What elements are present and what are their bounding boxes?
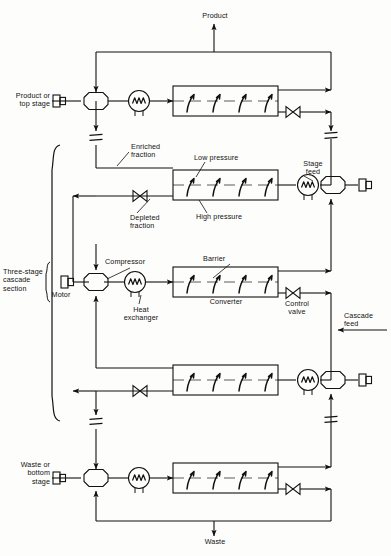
control-valve-symbol: [286, 288, 300, 299]
control-valve-symbol: [286, 107, 300, 118]
motor-symbol: [359, 374, 372, 386]
barrier-label: Barrier: [203, 255, 225, 263]
stage-feed-label: Stage feed: [296, 160, 330, 177]
product-or-top-stage-label: Product or top stage: [4, 92, 50, 109]
control-valve-symbol: [286, 484, 300, 495]
depleted-fraction-label: Depleted fraction: [130, 214, 160, 231]
waste-or-bottom-stage-label: Waste or bottom stage: [2, 461, 50, 486]
motor-symbol: [359, 179, 372, 191]
line-break-symbol: [90, 418, 103, 424]
enriched-fraction-label: Enriched fraction: [131, 143, 160, 160]
heat-exchanger-symbol: [129, 91, 150, 117]
barrier-leader: [213, 264, 230, 278]
motor-label: Motor: [48, 291, 74, 299]
converter-box: [173, 365, 278, 395]
converter-box: [173, 170, 278, 200]
waste-label: Waste: [194, 538, 236, 546]
low-pressure-label: Low pressure: [194, 154, 238, 162]
compressor-label: Compressor: [105, 258, 145, 266]
motor-symbol: [61, 276, 74, 288]
enriched-leader: [117, 152, 129, 166]
control-valve-label: Control valve: [278, 300, 316, 317]
heat-exchanger-symbol: [129, 468, 150, 494]
line-break-symbol: [325, 132, 338, 138]
process-flow-schematic: [0, 0, 391, 556]
converter-box: [173, 463, 278, 493]
depleted-leader: [137, 199, 150, 213]
diagram-canvas: Product Waste Product or top stage Waste…: [0, 0, 391, 556]
converter-label: Converter: [198, 298, 254, 306]
heat-exchanger-symbol: [125, 272, 146, 298]
heat-exchanger-symbol: [298, 370, 319, 396]
heat-exchanger-label: Heat exchanger: [119, 306, 163, 323]
three-stage-cascade-section-label: Three-stage cascade section: [3, 268, 47, 293]
compressor-symbol: [84, 470, 108, 487]
line-break-symbol: [90, 134, 103, 140]
product-label: Product: [194, 12, 236, 20]
high-pressure-label: High pressure: [196, 213, 242, 221]
cascade-section-brace: [52, 145, 60, 421]
cascade-feed-label: Cascade feed: [344, 312, 373, 329]
converter-box: [173, 86, 278, 116]
converter-box: [173, 267, 278, 297]
compressor-leader: [107, 268, 130, 279]
